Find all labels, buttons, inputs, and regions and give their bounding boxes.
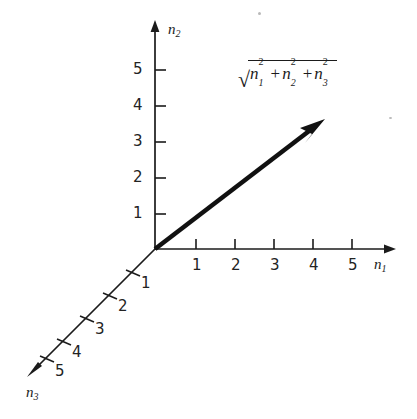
n3-tick-label-1: 1 <box>141 276 151 291</box>
n3-axis-label-sub: 3 <box>34 391 39 402</box>
n1-tick-label-4: 4 <box>309 258 319 273</box>
magnitude-vector-arrowhead <box>300 119 325 143</box>
radical-sign: √ <box>238 69 250 91</box>
term-n1-base: n <box>250 64 259 83</box>
scan-speck-right <box>389 117 392 119</box>
n1-axis-label: n1 <box>374 257 387 272</box>
n2-tick-label-4: 4 <box>133 98 143 113</box>
n3-tick-label-2: 2 <box>118 299 128 314</box>
term-n3-sub: 3 <box>323 77 328 88</box>
plus-sign-1: + <box>269 64 283 83</box>
n2-tick-label-3: 3 <box>133 134 143 149</box>
n1-tick-label-2: 2 <box>231 258 241 273</box>
figure-container: 5 4 3 2 1 1 2 3 4 5 1 2 3 4 5 n2 n1 n3 √… <box>0 0 417 419</box>
n2-axis-arrowhead <box>151 20 160 32</box>
term-n2-sup: 2 <box>291 56 296 67</box>
term-n3: n32 <box>314 64 333 83</box>
radicand: n12+n22+n32 <box>248 60 337 85</box>
term-n2: n22 <box>282 64 301 83</box>
scan-speck-top <box>258 12 261 15</box>
n3-axis-label: n3 <box>26 385 39 400</box>
n1-axis-label-sub: 1 <box>382 263 387 274</box>
term-n3-sup: 2 <box>323 56 328 67</box>
n1-axis-label-base: n <box>374 256 382 272</box>
term-n2-base: n <box>282 64 291 83</box>
n2-axis-label: n2 <box>168 22 181 37</box>
term-n1-sup: 2 <box>259 56 264 67</box>
n1-axis-arrowhead <box>384 245 396 254</box>
n2-tick-label-5: 5 <box>133 62 143 77</box>
term-n3-base: n <box>314 64 323 83</box>
plus-sign-2: + <box>301 64 315 83</box>
n3-axis <box>36 249 155 368</box>
n2-axis-ticks <box>155 70 166 214</box>
n3-tick-label-5: 5 <box>55 364 65 379</box>
term-n2-sub: 2 <box>291 77 296 88</box>
axes-diagram <box>0 0 417 419</box>
n1-axis-ticks <box>196 239 352 249</box>
n1-tick-label-3: 3 <box>270 258 280 273</box>
n1-tick-label-1: 1 <box>192 258 202 273</box>
n2-tick-label-2: 2 <box>133 170 143 185</box>
n1-tick-label-5: 5 <box>348 258 358 273</box>
n2-axis-label-sub: 2 <box>176 28 181 39</box>
term-n1: n12 <box>250 64 269 83</box>
n3-tick-label-4: 4 <box>72 345 82 360</box>
n3-axis-arrowhead <box>27 362 42 377</box>
n3-tick-label-3: 3 <box>95 322 105 337</box>
n2-tick-label-1: 1 <box>133 206 143 221</box>
n3-axis-label-base: n <box>26 384 34 400</box>
term-n1-sub: 1 <box>259 77 264 88</box>
magnitude-formula: √n12+n22+n32 <box>238 60 337 91</box>
n2-axis-label-base: n <box>168 21 176 37</box>
magnitude-vector <box>155 119 325 249</box>
